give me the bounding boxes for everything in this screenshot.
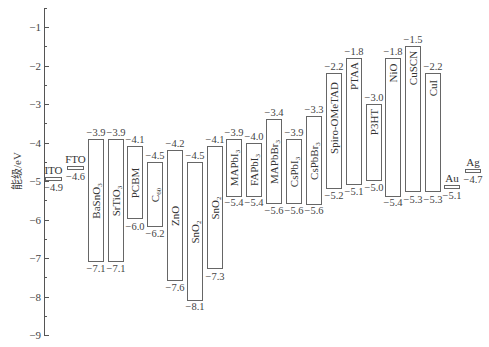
y-tick-major: [44, 143, 49, 144]
bar-basno3: BaSnO3: [88, 139, 104, 262]
bar-cspbi3: CsPbI3: [286, 139, 302, 204]
y-tick-label: −4: [11, 137, 41, 149]
bar-label-zno: ZnO: [169, 205, 181, 225]
bar-label-subscript: 3: [116, 185, 124, 189]
top-value-pcbm: −4.1: [120, 134, 150, 145]
bar-label-cspbbr3: CsPbBr3: [308, 142, 320, 180]
y-tick-label: −8: [11, 291, 41, 303]
y-tick-minor: [44, 46, 47, 47]
top-value-nio: −1.8: [378, 46, 408, 57]
bar-label-fapbi3: FAPbI3: [248, 154, 260, 186]
bar-label-text: C: [149, 194, 161, 201]
bar-label-c60: C60: [149, 187, 161, 201]
bar-label-text: BaSnO: [90, 186, 102, 218]
bar-label-text: FAPbI: [248, 157, 260, 186]
bar-srtio3: SrTiO3: [108, 139, 124, 262]
bar-label-p3ht: P3HT: [368, 109, 380, 135]
bar-ag: [465, 169, 481, 173]
bar-label-nio: NiO: [387, 63, 399, 82]
energy-level-chart: 能级/eV −1−2−3−4−5−6−7−8−9 ITO−4.9FTO−4.6B…: [0, 0, 489, 347]
bar-spiro: Spiro-OMeTAD: [326, 73, 342, 189]
bar-label-subscript: 3: [314, 142, 322, 146]
bottom-value-ito: −4.9: [39, 182, 69, 193]
bar-ptaa: PTAA: [346, 58, 362, 185]
bar-zno: ZnO: [167, 150, 183, 281]
bar-label-mapbbr3: MAPbBr3: [268, 140, 280, 184]
bar-label-mapbi3: MAPbI3: [228, 150, 240, 187]
bar-label-fto: FTO: [63, 153, 88, 165]
bar-fto: [67, 166, 84, 170]
y-tick-label: −9: [11, 329, 41, 341]
y-tick-minor: [44, 85, 47, 86]
bottom-value-c60: −6.2: [140, 228, 170, 239]
bar-label-subscript: 3: [274, 140, 282, 144]
y-tick-label: −7: [11, 252, 41, 264]
bottom-value-au: −5.1: [437, 190, 467, 201]
bottom-value-cspbbr3: −5.6: [299, 205, 329, 216]
bar-label-text: SnO: [189, 223, 201, 243]
bar-label-subscript: 2: [195, 220, 203, 224]
y-tick-label: −2: [11, 60, 41, 72]
y-tick-minor: [44, 277, 47, 278]
y-tick-major: [44, 104, 49, 105]
bar-label-text: NiO: [387, 63, 399, 82]
bar-label-text: Spiro-OMeTAD: [328, 82, 340, 154]
bar-label-text: CsPbBr: [308, 145, 320, 179]
bar-label-subscript: 3: [96, 183, 104, 187]
y-tick-minor: [44, 8, 47, 9]
bar-ito: [45, 177, 62, 181]
bar-label-text: SrTiO: [110, 189, 122, 216]
top-value-zno: −4.2: [160, 138, 190, 149]
bottom-value-sno2-a: −8.1: [180, 301, 210, 312]
bar-label-cspbi3: CsPbI3: [288, 156, 300, 186]
bar-label-ag: Ag: [461, 156, 485, 168]
bar-label-text: PTAA: [348, 62, 360, 90]
bar-label-subscript: 3: [294, 156, 302, 160]
bar-mapbi3: MAPbI3: [226, 139, 242, 197]
bar-label-subscript: 3: [234, 150, 242, 154]
top-value-fapbi3: −4.0: [239, 131, 269, 142]
y-tick-minor: [44, 200, 47, 201]
bar-label-subscript: 60: [155, 187, 163, 194]
bar-cui: CuI: [425, 73, 441, 192]
bottom-value-fto: −4.6: [61, 171, 91, 182]
bottom-value-sno2-b: −7.3: [200, 271, 230, 282]
bottom-value-srtio3: −7.1: [101, 263, 131, 274]
top-value-spiro: −2.2: [319, 61, 349, 72]
y-axis-label: 能级/eV: [8, 141, 24, 201]
y-tick-major: [44, 335, 49, 336]
bar-label-text: MAPbI: [228, 153, 240, 186]
bar-c60: C60: [147, 162, 163, 227]
bar-label-spiro: Spiro-OMeTAD: [328, 82, 340, 154]
bar-label-text: MAPbBr: [268, 143, 280, 183]
bar-label-cui: CuI: [427, 80, 439, 97]
top-value-mapbbr3: −3.4: [259, 107, 289, 118]
bar-label-text: ZnO: [169, 205, 181, 225]
y-tick-label: −5: [11, 175, 41, 187]
top-value-cui: −2.2: [418, 61, 448, 72]
bar-au: [444, 185, 460, 189]
top-value-cuscn: −1.5: [398, 34, 428, 45]
bar-label-text: CsPbI: [288, 160, 300, 187]
top-value-ptaa: −1.8: [339, 46, 369, 57]
y-tick-label: −1: [11, 21, 41, 33]
y-tick-minor: [44, 316, 47, 317]
bar-label-basno3: BaSnO3: [90, 183, 102, 218]
bar-fapbi3: FAPbI3: [246, 143, 262, 197]
bar-label-ptaa: PTAA: [348, 62, 360, 90]
bar-label-sno2-a: SnO2: [189, 220, 201, 243]
bar-label-text: CuI: [427, 80, 439, 97]
top-value-cspbbr3: −3.3: [299, 104, 329, 115]
y-tick-major: [44, 66, 49, 67]
y-tick-minor: [44, 123, 47, 124]
bar-label-text: P3HT: [368, 109, 380, 135]
y-tick-major: [44, 297, 49, 298]
bottom-value-ag: −4.7: [458, 174, 488, 185]
bar-label-subscript: 3: [254, 154, 262, 158]
y-tick-label: −6: [11, 214, 41, 226]
bar-nio: NiO: [385, 58, 401, 197]
top-value-c60: −4.5: [140, 150, 170, 161]
y-tick-minor: [44, 162, 47, 163]
y-tick-major: [44, 27, 49, 28]
top-value-sno2-a: −4.5: [180, 150, 210, 161]
